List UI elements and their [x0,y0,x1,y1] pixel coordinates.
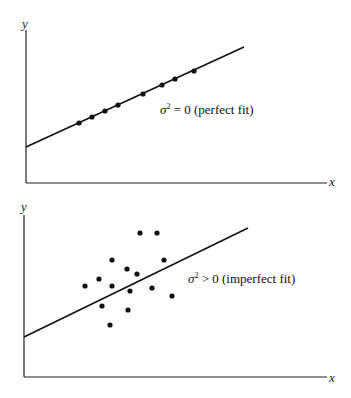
data-point [149,285,154,290]
data-point [76,120,81,125]
data-point [140,91,145,96]
top-y-axis-label: y [22,16,28,32]
bottom-y-axis-label: y [21,199,27,215]
data-point [124,266,129,271]
data-point [96,276,101,281]
data-point [125,307,130,312]
data-point [172,76,177,81]
data-point [161,257,166,262]
data-point [137,230,142,235]
data-point [127,288,132,293]
data-point [134,271,139,276]
data-point [99,303,104,308]
top-x-axis-label: x [329,174,335,190]
data-point [109,257,114,262]
data-point [82,283,87,288]
annotation-text: = 0 (perfect fit) [170,102,253,117]
data-point [159,82,164,87]
annotation-text: > 0 (imperfect fit) [198,271,295,286]
top-annotation: σ2 = 0 (perfect fit) [160,102,254,118]
bottom-x-axis-label: x [329,370,335,386]
data-point [169,293,174,298]
regression-line [26,47,244,147]
imperfect-fit-panel [24,215,327,377]
data-point [89,114,94,119]
data-point [115,102,120,107]
data-point [154,230,159,235]
data-point [107,322,112,327]
data-point [102,108,107,113]
data-point [191,68,196,73]
data-point [109,283,114,288]
regression-diagrams [0,0,351,398]
bottom-annotation: σ2 > 0 (imperfect fit) [188,271,295,287]
